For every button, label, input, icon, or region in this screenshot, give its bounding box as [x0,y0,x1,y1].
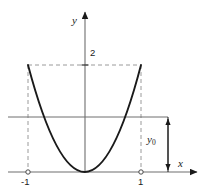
parabola-figure: y x 2 -1 1 y0 [0,0,211,193]
x-axis-label: x [178,158,183,169]
marker-x-plus-1 [139,170,143,174]
y-tick-label-2: 2 [90,48,95,58]
x-tick-label-minus-1: -1 [21,177,29,187]
y0-measure-label: y0 [147,134,156,145]
x-tick-label-plus-1: 1 [138,177,143,187]
y-axis-label: y [72,15,77,26]
marker-x-minus-1 [26,170,30,174]
y0-subscript: 0 [152,138,156,147]
